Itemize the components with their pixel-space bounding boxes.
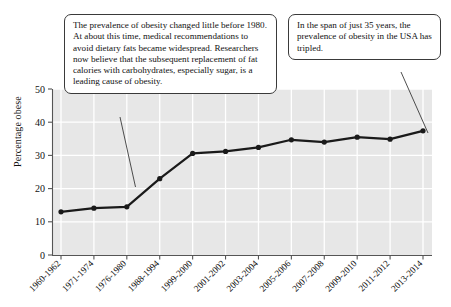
svg-text:0: 0 [40, 250, 45, 261]
svg-text:1971-1974: 1971-1974 [60, 258, 96, 294]
svg-text:1976-1980: 1976-1980 [93, 258, 129, 294]
annotation-callout-2: In the span of just 35 years, the preval… [288, 14, 441, 60]
svg-text:20: 20 [35, 183, 45, 194]
x-axis-tick-labels: 1960-19621971-19741976-19801988-19941999… [27, 258, 425, 294]
svg-text:2011-2012: 2011-2012 [357, 258, 392, 293]
annotation-callout-2-text: In the span of just 35 years, the preval… [297, 20, 433, 54]
svg-text:1988-1994: 1988-1994 [126, 258, 162, 294]
svg-text:2013-2014: 2013-2014 [389, 258, 425, 294]
svg-text:2007-2008: 2007-2008 [290, 258, 326, 294]
y-axis-ticks: 01020304050 [35, 84, 52, 261]
svg-text:30: 30 [35, 150, 45, 161]
y-axis-label: Percentage obese [12, 77, 23, 187]
plot-area-background [52, 89, 432, 255]
svg-text:1960-1962: 1960-1962 [27, 258, 63, 294]
svg-text:2001-2002: 2001-2002 [192, 258, 228, 294]
svg-text:40: 40 [35, 117, 45, 128]
svg-text:2005-2006: 2005-2006 [258, 258, 294, 294]
svg-text:2003-2004: 2003-2004 [225, 258, 261, 294]
annotation-callout-1: The prevalence of obesity changed little… [64, 14, 277, 94]
obesity-line-chart-figure: 01020304050 1960-19621971-19741976-19801… [0, 0, 451, 307]
annotation-callout-1-text: The prevalence of obesity changed little… [73, 20, 269, 88]
svg-text:2009-2010: 2009-2010 [323, 258, 359, 294]
svg-text:50: 50 [35, 84, 45, 95]
svg-text:1999-2000: 1999-2000 [159, 258, 195, 294]
svg-text:10: 10 [35, 216, 45, 227]
